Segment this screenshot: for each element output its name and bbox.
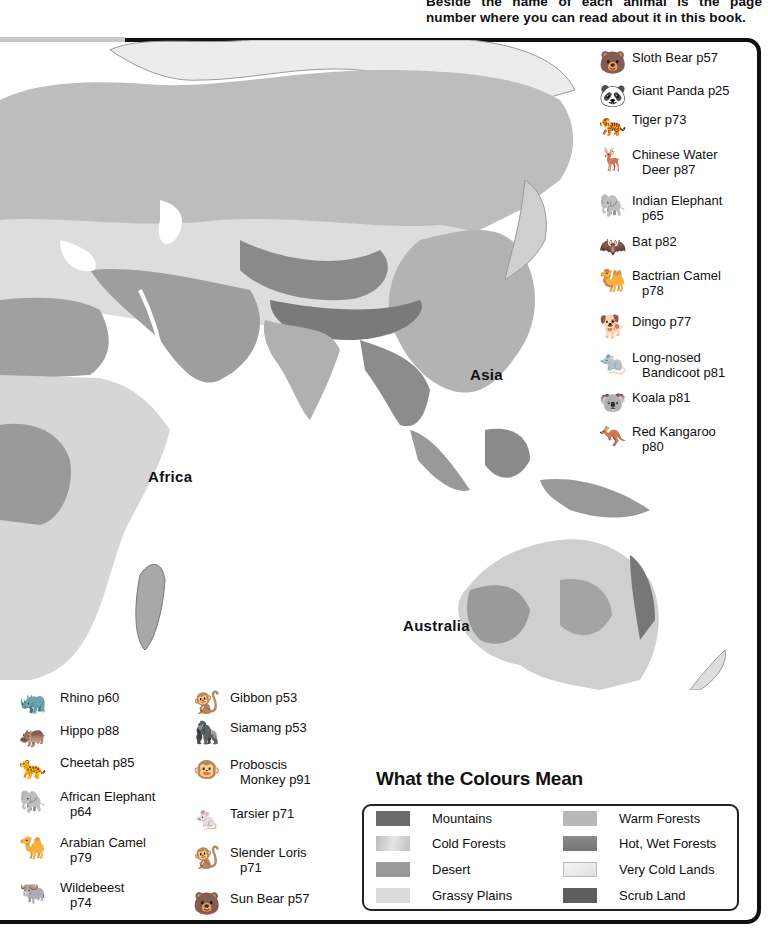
legend-label: Cold Forests (432, 836, 506, 851)
key-label-line2: p80 (632, 439, 716, 454)
legend-item-cold-forests: Cold Forests (376, 836, 506, 851)
key-label: Slender Loris (230, 845, 307, 860)
deer-icon: 🦌 (592, 147, 632, 173)
key-item-tiger: 🐅 Tiger p73 (592, 112, 686, 138)
elephant-icon: 🐘 (12, 789, 52, 815)
key-label: Giant Panda p25 (632, 83, 730, 98)
legend-item-scrub-land: Scrub Land (563, 888, 686, 903)
key-label: Red Kangaroo (632, 424, 716, 439)
legend-label: Warm Forests (619, 811, 700, 826)
key-item-giant-panda: 🐼 Giant Panda p25 (592, 83, 730, 109)
legend-item-mountains: Mountains (376, 811, 492, 826)
camel-icon: 🐫 (592, 268, 632, 294)
key-item-arabian-camel: 🐪 Arabian Camelp79 (12, 835, 146, 865)
tiger-icon: 🐅 (592, 112, 632, 138)
key-item-rhino: 🦏 Rhino p60 (12, 690, 119, 716)
legend-label: Desert (432, 862, 470, 877)
key-item-red-kangaroo: 🦘 Red Kangaroop80 (592, 424, 716, 454)
key-label: Indian Elephant (632, 193, 722, 208)
monkey-icon: 🐵 (186, 757, 226, 783)
key-item-tarsier: 🐁 Tarsier p71 (186, 806, 294, 832)
key-item-gibbon: 🐒 Gibbon p53 (186, 690, 297, 716)
legend-item-warm-forests: Warm Forests (563, 811, 700, 826)
legend-item-desert: Desert (376, 862, 470, 877)
key-label-line2: p74 (60, 895, 124, 910)
legend-label: Mountains (432, 811, 492, 826)
legend-label: Hot, Wet Forests (619, 836, 716, 851)
key-item-cheetah: 🐆 Cheetah p85 (12, 755, 134, 781)
tarsier-icon: 🐁 (186, 806, 226, 832)
legend-label: Grassy Plains (432, 888, 512, 903)
key-label: Sloth Bear p57 (632, 50, 718, 65)
region-label-australia: Australia (403, 617, 470, 634)
key-item-proboscis-monkey: 🐵 ProboscisMonkey p91 (186, 757, 311, 787)
key-label: Long-nosed (632, 350, 701, 365)
key-label: Rhino p60 (60, 690, 119, 705)
key-item-slender-loris: 🐒 Slender Lorisp71 (186, 845, 307, 875)
key-label-line2: p79 (60, 850, 146, 865)
swatch-grassy-plains (376, 888, 410, 903)
key-item-siamang: 🦍 Siamang p53 (186, 720, 307, 746)
key-label: Proboscis (230, 757, 287, 772)
key-label-line2: Monkey p91 (230, 772, 311, 787)
swatch-scrub-land (563, 888, 597, 903)
key-label: Bat p82 (632, 234, 677, 249)
key-label-line2: Bandicoot p81 (632, 365, 725, 380)
swatch-desert (376, 862, 410, 877)
kangaroo-icon: 🦘 (592, 424, 632, 450)
gibbon-icon: 🐒 (186, 690, 226, 716)
hippo-icon: 🦛 (12, 723, 52, 749)
swatch-cold-forests (376, 836, 410, 851)
legend-label: Scrub Land (619, 888, 686, 903)
wildebeest-icon: 🐃 (12, 880, 52, 906)
key-item-african-elephant: 🐘 African Elephantp64 (12, 789, 155, 819)
bear-icon: 🐻 (186, 891, 226, 917)
panda-icon: 🐼 (592, 83, 632, 109)
dingo-icon: 🐕 (592, 314, 632, 340)
key-label: Arabian Camel (60, 835, 146, 850)
key-label-line2: Deer p87 (632, 162, 718, 177)
bat-icon: 🦇 (592, 234, 632, 260)
elephant-icon: 🐘 (592, 193, 632, 219)
key-label: Sun Bear p57 (230, 891, 310, 906)
key-item-wildebeest: 🐃 Wildebeestp74 (12, 880, 124, 910)
key-item-dingo: 🐕 Dingo p77 (592, 314, 691, 340)
key-label-line2: p65 (632, 208, 722, 223)
key-label: African Elephant (60, 789, 155, 804)
region-label-africa: Africa (148, 468, 192, 485)
camel-icon: 🐪 (12, 835, 52, 861)
bandicoot-icon: 🐀 (592, 350, 632, 376)
key-item-chinese-water-deer: 🦌 Chinese WaterDeer p87 (592, 147, 718, 177)
key-item-sun-bear: 🐻 Sun Bear p57 (186, 891, 310, 917)
key-label: Gibbon p53 (230, 690, 297, 705)
bear-icon: 🐻 (592, 50, 632, 76)
loris-icon: 🐒 (186, 845, 226, 871)
swatch-mountains (376, 811, 410, 826)
legend-item-grassy-plains: Grassy Plains (376, 888, 512, 903)
legend-label: Very Cold Lands (619, 862, 714, 877)
key-label-line2: p64 (60, 804, 155, 819)
key-label: Wildebeest (60, 880, 124, 895)
key-label: Bactrian Camel (632, 268, 721, 283)
key-label: Hippo p88 (60, 723, 119, 738)
key-label: Dingo p77 (632, 314, 691, 329)
key-label: Chinese Water (632, 147, 718, 162)
koala-icon: 🐨 (592, 390, 632, 416)
key-label: Koala p81 (632, 390, 691, 405)
key-item-indian-elephant: 🐘 Indian Elephantp65 (592, 193, 722, 223)
key-item-sloth-bear: 🐻 Sloth Bear p57 (592, 50, 718, 76)
legend-item-very-cold-lands: Very Cold Lands (563, 862, 714, 877)
key-label: Tiger p73 (632, 112, 686, 127)
key-label: Tarsier p71 (230, 806, 294, 821)
key-item-bat: 🦇 Bat p82 (592, 234, 677, 260)
key-item-bactrian-camel: 🐫 Bactrian Camelp78 (592, 268, 721, 298)
key-item-hippo: 🦛 Hippo p88 (12, 723, 119, 749)
key-label-line2: p78 (632, 283, 721, 298)
key-item-bandicoot: 🐀 Long-nosedBandicoot p81 (592, 350, 725, 380)
intro-text: Beside the name of each animal is the pa… (426, 0, 762, 26)
siamang-icon: 🦍 (186, 720, 226, 746)
legend-item-hot-wet-forests: Hot, Wet Forests (563, 836, 716, 851)
swatch-hot-wet-forests (563, 836, 597, 851)
key-label-line2: p71 (230, 860, 307, 875)
rhino-icon: 🦏 (12, 690, 52, 716)
